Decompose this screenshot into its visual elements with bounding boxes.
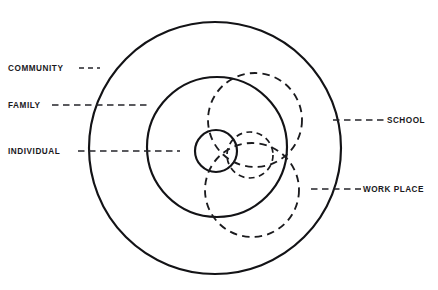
left-leader-group <box>52 68 180 151</box>
right-label-group: SCHOOL WORK PLACE <box>363 116 425 194</box>
family-label: FAMILY <box>8 101 41 110</box>
left-label-group: COMMUNITY FAMILY INDIVIDUAL <box>8 64 63 156</box>
right-leader-group <box>311 120 385 189</box>
work-place-circle <box>205 143 299 237</box>
community-circle <box>89 22 341 274</box>
community-label: COMMUNITY <box>8 64 63 73</box>
solid-circle-group <box>89 22 341 274</box>
individual-circle <box>195 130 237 172</box>
diagram-canvas: COMMUNITY FAMILY INDIVIDUAL SCHOOL WORK … <box>0 0 438 290</box>
individual-label: INDIVIDUAL <box>8 147 60 156</box>
ecological-systems-diagram: COMMUNITY FAMILY INDIVIDUAL SCHOOL WORK … <box>0 0 438 290</box>
work-place-label: WORK PLACE <box>363 185 424 194</box>
school-label: SCHOOL <box>387 116 425 125</box>
dashed-circle-group <box>205 73 302 237</box>
